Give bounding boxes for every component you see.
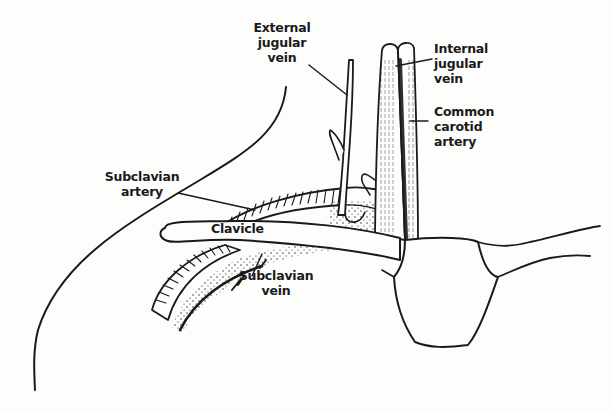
sternum <box>394 238 498 347</box>
label-external-jugular-vein: External jugular vein <box>246 20 318 65</box>
anatomy-diagram: External jugular vein Internal jugular v… <box>0 0 612 412</box>
label-subclavian-artery: Subclavian artery <box>104 169 180 199</box>
label-clavicle: Clavicle <box>211 221 271 236</box>
leader-external-jugular <box>309 65 347 95</box>
label-subclavian-vein: Subclavian vein <box>238 268 314 298</box>
label-internal-jugular-vein: Internal jugular vein <box>434 41 504 86</box>
right-rib <box>498 255 590 277</box>
leader-subclavian-artery <box>178 193 255 210</box>
label-common-carotid-artery: Common carotid artery <box>434 104 508 149</box>
right-clavicle <box>478 226 600 246</box>
external-jugular-vein <box>338 60 353 215</box>
